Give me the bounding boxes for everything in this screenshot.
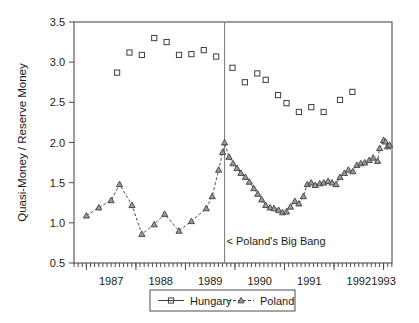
data-point-marker-triangle <box>300 193 306 199</box>
data-point-marker-triangle <box>116 181 122 187</box>
data-point-marker-square <box>275 93 280 98</box>
data-point-marker-triangle <box>377 145 383 151</box>
data-point-marker-square <box>139 52 144 57</box>
data-point-marker-square <box>321 109 326 114</box>
data-point-marker-triangle <box>259 196 265 202</box>
x-axis-tick-label: 1989 <box>198 275 222 287</box>
y-axis-tick-label: 0.5 <box>50 257 65 269</box>
annotation-polands-big-bang: < Poland's Big Bang <box>227 235 326 247</box>
data-point-marker-square <box>242 80 247 85</box>
data-point-marker-triangle <box>263 202 269 208</box>
data-point-marker-triangle <box>129 202 135 208</box>
data-point-marker-square <box>230 65 235 70</box>
data-point-marker-triangle <box>188 218 194 224</box>
data-point-marker-square <box>263 77 268 82</box>
x-axis-tick-label: 1992 <box>347 275 371 287</box>
y-axis-tick-label: 3.0 <box>50 56 65 68</box>
data-point-marker-square <box>152 35 157 40</box>
y-axis-tick-label: 3.5 <box>50 16 65 28</box>
y-axis-tick-label: 2.0 <box>50 137 65 149</box>
y-axis-title: Quasi-Money / Reserve Money <box>16 63 28 222</box>
data-point-marker-square <box>189 52 194 57</box>
data-point-marker-triangle <box>209 193 215 199</box>
y-axis-tick-label: 1.5 <box>50 177 65 189</box>
data-point-marker-triangle <box>216 167 222 173</box>
legend-label-hungary: Hungary <box>190 295 232 307</box>
data-point-marker-triangle <box>370 155 376 161</box>
chart-figure: 0.51.01.52.02.53.03.51987198819891990199… <box>0 0 419 323</box>
plot-area-border <box>74 22 392 263</box>
data-point-marker-triangle <box>108 197 114 203</box>
data-point-marker-triangle <box>139 231 145 237</box>
data-point-marker-triangle <box>83 213 89 219</box>
data-point-marker-square <box>201 48 206 53</box>
data-point-marker-square <box>176 52 181 57</box>
data-point-marker-triangle <box>162 211 168 217</box>
x-axis-tick-label: 1993 <box>371 275 395 287</box>
data-point-marker-square <box>337 97 342 102</box>
y-axis-tick-label: 1.0 <box>50 217 65 229</box>
series-line-poland <box>86 140 389 234</box>
x-axis-tick-label: 1990 <box>248 275 272 287</box>
data-point-marker-triangle <box>203 205 209 211</box>
data-point-marker-triangle <box>226 154 232 160</box>
data-point-marker-square <box>255 71 260 76</box>
data-point-marker-square <box>114 70 119 75</box>
x-axis-tick-label: 1987 <box>99 275 123 287</box>
data-point-marker-triangle <box>96 204 102 210</box>
data-point-marker-square <box>309 105 314 110</box>
x-axis-tick-label: 1991 <box>297 275 321 287</box>
data-point-marker-square <box>127 50 132 55</box>
data-point-marker-square <box>214 54 219 59</box>
data-point-marker-triangle <box>230 160 236 166</box>
data-point-marker-triangle <box>221 139 227 145</box>
quasi-money-reserve-money-chart: 0.51.01.52.02.53.03.51987198819891990199… <box>0 0 419 323</box>
data-point-marker-square <box>284 101 289 106</box>
data-point-marker-triangle <box>345 167 351 173</box>
data-point-marker-square <box>164 39 169 44</box>
x-axis-tick-label: 1988 <box>148 275 172 287</box>
data-point-marker-triangle <box>255 191 261 197</box>
data-point-marker-triangle <box>251 185 257 191</box>
y-axis-tick-label: 2.5 <box>50 96 65 108</box>
data-point-marker-square <box>350 89 355 94</box>
legend-label-poland: Poland <box>260 295 294 307</box>
data-point-marker-square <box>296 109 301 114</box>
